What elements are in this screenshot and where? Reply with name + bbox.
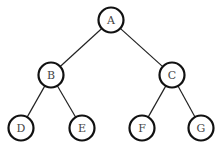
node-e: E (70, 116, 95, 141)
node-d: D (9, 116, 34, 141)
node-c: C (160, 63, 185, 88)
tree-svg: ABCDEFG (0, 0, 219, 160)
node-f: F (130, 116, 155, 141)
node-b: B (39, 63, 64, 88)
node-label: E (78, 122, 86, 135)
node-label: B (47, 69, 55, 82)
edge-a-b (60, 28, 102, 66)
node-label: A (106, 14, 116, 27)
tree-diagram: ABCDEFG (0, 0, 219, 160)
edge-c-g (178, 86, 195, 117)
node-label: F (138, 122, 146, 135)
node-label: G (197, 122, 206, 135)
edge-b-e (57, 86, 75, 117)
edge-c-f (148, 86, 166, 117)
edge-a-c (120, 28, 162, 66)
node-a: A (99, 8, 124, 33)
node-label: C (168, 69, 176, 82)
edge-b-d (27, 86, 45, 117)
node-g: G (189, 116, 214, 141)
node-label: D (17, 122, 26, 135)
nodes-group: ABCDEFG (9, 8, 214, 141)
